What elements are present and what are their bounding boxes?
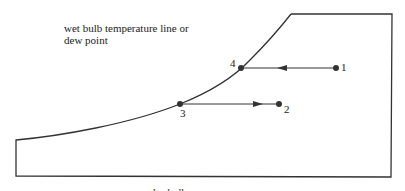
bottom-label-clipped: dry bulb — [0, 186, 405, 191]
bottom-axis-label: dry bulb — [150, 186, 187, 191]
state-point-2 — [276, 101, 282, 107]
point-label-3: 3 — [180, 108, 186, 119]
arrow-left-icon — [277, 65, 287, 71]
state-point-4 — [238, 65, 244, 71]
point-label-1: 1 — [341, 62, 347, 73]
psychrometric-diagram — [0, 0, 405, 191]
arrow-right-icon — [253, 101, 263, 107]
point-label-4: 4 — [230, 58, 236, 69]
annotation-wet-bulb: wet bulb temperature line or dew point — [64, 22, 189, 46]
annotation-line-1: wet bulb temperature line or — [64, 22, 189, 34]
point-label-2: 2 — [284, 104, 290, 115]
annotation-line-2: dew point — [64, 34, 189, 46]
state-point-1 — [333, 65, 339, 71]
